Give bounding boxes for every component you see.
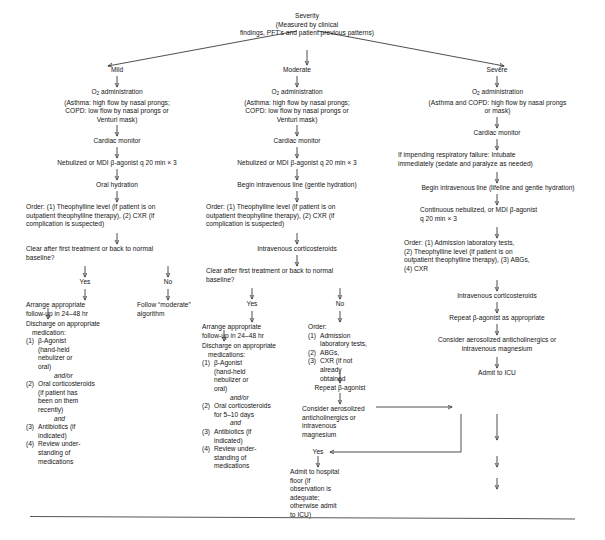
- severe-cardiac-monitor-step: Cardiac monitor: [447, 129, 547, 138]
- mild-hydration-step: Oral hydration: [72, 181, 162, 190]
- list-item: (1) β-Agonist (hand-held nebulizer or or…: [202, 359, 314, 393]
- list-item-number: (4): [202, 445, 214, 471]
- list-item-text: Oral corticosteroids for 5–10 days: [214, 402, 314, 419]
- severe-admit-icu-step: Admit to ICU: [447, 369, 547, 378]
- list-item-number: (1): [308, 332, 320, 349]
- list-item-text: ABGs,: [320, 349, 392, 358]
- list-item-text: Antibiotics (if indicated): [38, 423, 132, 440]
- list-item: (4) Review under- standing of medication…: [26, 440, 132, 466]
- moderate-oxygen-step: O2 administration (Asthma: high flow by …: [207, 88, 387, 125]
- severe-consider-adjuncts-step: Consider aerosolized anticholinergics or…: [400, 336, 594, 353]
- list-item-number: (2): [308, 349, 320, 358]
- mild-no-followup: Follow “moderate” algorithm: [137, 301, 232, 318]
- list-item: (1) β-Agonist (hand-held nebulizer or or…: [26, 337, 132, 371]
- list-item-number: (4): [26, 440, 38, 466]
- list-item-number: (1): [202, 359, 214, 393]
- branch-label-mild: Mild: [82, 66, 152, 75]
- moderate-discharge-block: Discharge on appropriate medications: (1…: [202, 342, 314, 471]
- moderate-decision-yes-label: Yes: [233, 300, 271, 309]
- moderate-repeat-agonist-step: Repeat β-agonist: [300, 384, 380, 393]
- mild-discharge-block: Discharge on appropriate medication: (1)…: [26, 320, 132, 466]
- branch-label-severe: Severe: [462, 66, 532, 75]
- moderate-no-order-heading: Order:: [308, 323, 392, 332]
- list-item: (3) CXR (if not already obtained: [308, 357, 392, 383]
- mild-decision-node: Clear after first treatment or back to n…: [26, 245, 212, 262]
- mild-conjunction-and: and: [26, 415, 132, 424]
- mild-cardiac-monitor-step: Cardiac monitor: [67, 137, 167, 146]
- list-item-number: (2): [26, 380, 38, 414]
- list-item-number: (3): [26, 423, 38, 440]
- mild-conjunction-andor: and/or: [26, 372, 132, 381]
- list-item-number: (3): [202, 428, 214, 445]
- moderate-discharge-subheading: medications:: [202, 351, 314, 360]
- mild-order-step: Order: (1) Theophylline level (if patien…: [26, 203, 212, 229]
- list-item-text: β-Agonist (hand-held nebulizer or oral): [38, 337, 132, 371]
- severe-iv-corticosteroids-step: Intravenous corticosteroids: [422, 292, 572, 301]
- moderate-order-step: Order: (1) Theophylline level (if patien…: [206, 203, 392, 229]
- list-item-number: (1): [26, 337, 38, 371]
- moderate-improved-yes-label: Yes: [299, 448, 337, 457]
- moderate-admit-hospital-floor: Admit to hospital floor (if observation …: [290, 468, 380, 520]
- mild-bronchodilator-step: Nebulized or MDI β-agonist q 20 min × 3: [22, 159, 212, 168]
- list-item: (2) Oral corticosteroids (if patient has…: [26, 380, 132, 414]
- severe-continuous-nebulized-step: Continuous nebulized, or MDI β-agonist q…: [420, 206, 600, 223]
- moderate-iv-line-step: Begin intravenous line (gentle hydration…: [202, 181, 392, 190]
- moderate-decision-node: Clear after first treatment or back to n…: [206, 267, 392, 284]
- mild-discharge-heading: Discharge on appropriate: [26, 320, 132, 329]
- severe-order-step: Order: (1) Admission laboratory tests, (…: [404, 239, 600, 273]
- mild-oxygen-step: O2 administration (Asthma: high flow by …: [27, 88, 207, 125]
- severe-iv-line-step: Begin intravenous line (lifeline and gen…: [396, 184, 600, 193]
- list-item: (2) Oral corticosteroids for 5–10 days: [202, 402, 314, 419]
- moderate-iv-corticosteroids-step: Intravenous corticosteroids: [222, 245, 372, 254]
- severe-intubate-step: If impending respiratory failure: Intuba…: [398, 151, 600, 168]
- list-item-text: β-Agonist (hand-held nebulizer or oral): [214, 359, 314, 393]
- list-item: (3) Antibiotics (if indicated): [202, 428, 314, 445]
- list-item: (3) Antibiotics (if indicated): [26, 423, 132, 440]
- mild-decision-yes-label: Yes: [66, 278, 104, 287]
- list-item-number: (2): [202, 402, 214, 419]
- severity-root-node: Severity (Measured by clinical findings,…: [212, 12, 402, 38]
- severe-repeat-agonist-step: Repeat β-agonist as appropriate: [412, 314, 582, 323]
- moderate-cardiac-monitor-step: Cardiac monitor: [247, 137, 347, 146]
- severe-oxygen-step: O2 administration (Asthma and COPD: high…: [395, 88, 600, 116]
- moderate-conjunction-andor: and/or: [202, 394, 314, 403]
- moderate-consider-adjuncts-step: Consider aerosolized anticholinergics or…: [302, 405, 390, 439]
- moderate-no-order-block: Order: (1) Admission laboratory tests, (…: [308, 323, 392, 383]
- moderate-decision-no-label: No: [321, 300, 359, 309]
- mild-yes-followup: Arrange appropriate follow-up in 24–48 h…: [26, 301, 126, 318]
- moderate-bronchodilator-step: Nebulized or MDI β-agonist q 20 min × 3: [202, 159, 392, 168]
- list-item-text: Oral corticosteroids (if patient has bee…: [38, 380, 132, 414]
- moderate-discharge-heading: Discharge on appropriate: [202, 342, 314, 351]
- moderate-yes-followup: Arrange appropriate follow-up in 24–48 h…: [202, 323, 302, 340]
- list-item-number: (3): [308, 357, 320, 383]
- mild-decision-no-label: No: [149, 278, 187, 287]
- moderate-conjunction-and: and: [202, 419, 314, 428]
- mild-discharge-subheading: medication:: [26, 329, 132, 338]
- branch-label-moderate: Moderate: [262, 66, 332, 75]
- list-item: (1) Admission laboratory tests,: [308, 332, 392, 349]
- list-item-text: Admission laboratory tests,: [320, 332, 392, 349]
- list-item-text: CXR (if not already obtained: [320, 357, 392, 383]
- list-item: (2) ABGs,: [308, 349, 392, 358]
- flowchart-canvas: Severity (Measured by clinical findings,…: [0, 0, 605, 540]
- list-item-text: Antibiotics (if indicated): [214, 428, 314, 445]
- list-item-text: Review under- standing of medications: [38, 440, 132, 466]
